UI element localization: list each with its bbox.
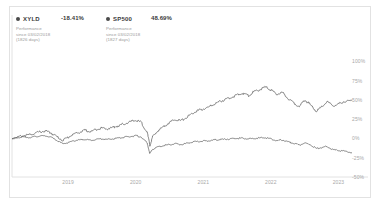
y-axis-tick: 100% [352, 58, 365, 64]
chart-widget: 100%75%50%25%0%-25%-50% 2019202020212022… [0, 0, 381, 210]
y-axis-tick: 0% [352, 135, 359, 141]
legend-days-label: (1826 days) [16, 37, 84, 43]
y-axis-tick: 50% [352, 97, 362, 103]
x-axis-tick: 2023 [333, 179, 345, 185]
legend-color-dot-icon [106, 17, 110, 21]
legend-days-label: (1827 days) [106, 37, 174, 43]
chart-legend: XYLD -18.41% Performance since 03/02/201… [16, 14, 174, 43]
legend-performance-value: -18.41% [61, 15, 84, 21]
series-line-xyld [12, 135, 352, 153]
series-lines [12, 86, 352, 153]
legend-ticker-label: XYLD [23, 16, 40, 22]
series-line-sp500 [12, 86, 352, 146]
legend-entry-xyld[interactable]: XYLD -18.41% Performance since 03/02/201… [16, 14, 84, 43]
x-axis-tick: 2021 [198, 179, 210, 185]
legend-subtext: Performance since 03/02/2018 (1827 days) [106, 26, 174, 43]
y-axis-tick: -25% [352, 155, 364, 161]
x-axis-labels: 20192020202120222023 [0, 179, 381, 193]
x-axis-tick: 2022 [265, 179, 277, 185]
legend-entry-sp500[interactable]: SP500 48.69% Performance since 03/02/201… [106, 14, 174, 43]
x-axis-tick: 2020 [130, 179, 142, 185]
y-axis-tick: 25% [352, 116, 362, 122]
y-axis-tick: 75% [352, 78, 362, 84]
legend-ticker-label: SP500 [113, 16, 132, 22]
legend-performance-value: 48.69% [151, 15, 172, 21]
legend-color-dot-icon [16, 17, 20, 21]
legend-subtext: Performance since 03/02/2018 (1826 days) [16, 26, 84, 43]
x-axis-tick: 2019 [62, 179, 74, 185]
